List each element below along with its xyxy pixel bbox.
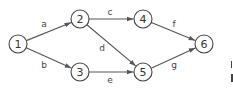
edge-1-3: [26, 48, 71, 68]
graph-diagram: abcdefg 123456: [0, 0, 233, 89]
edge-label-f: f: [172, 19, 176, 29]
node-2: 2: [71, 10, 89, 28]
edge-label-a: a: [41, 19, 47, 29]
node-label: 2: [77, 13, 84, 26]
node-1: 1: [9, 35, 27, 53]
edge-1-2: [26, 23, 71, 41]
edge-2-5: [87, 25, 136, 66]
edge-artifact-mark-2: [231, 74, 233, 82]
node-6: 6: [195, 35, 213, 53]
node-label: 6: [201, 38, 208, 51]
node-label: 4: [140, 13, 147, 26]
edges-group: abcdefg: [26, 7, 195, 85]
node-3: 3: [71, 63, 89, 81]
edge-label-b: b: [41, 60, 47, 70]
edge-label-d: d: [99, 43, 105, 53]
edge-label-g: g: [171, 60, 177, 70]
node-label: 1: [15, 38, 22, 51]
node-label: 5: [140, 66, 147, 79]
node-4: 4: [134, 10, 152, 28]
edge-artifact-mark-1: [231, 61, 232, 68]
edge-label-c: c: [108, 7, 113, 17]
edge-label-e: e: [107, 75, 113, 85]
node-label: 3: [77, 66, 84, 79]
node-5: 5: [134, 63, 152, 81]
